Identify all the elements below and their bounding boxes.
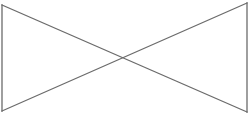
diagonal-down-line (2, 5, 247, 112)
bowtie-shape (2, 3, 247, 112)
bowtie-diagram (0, 0, 252, 115)
diagonal-up-line (2, 3, 247, 111)
